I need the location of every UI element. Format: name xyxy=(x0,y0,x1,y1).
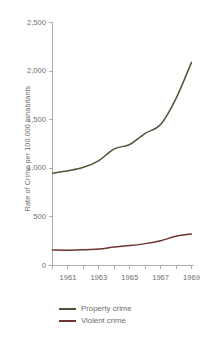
legend: Property crime Violent crime xyxy=(59,303,132,327)
crime-rate-line-chart: Rate of Crime per 100,000 Inhabitants 0 … xyxy=(0,0,208,346)
legend-item-violent-crime: Violent crime xyxy=(59,315,132,326)
legend-swatch-property-crime xyxy=(59,308,76,310)
series-line-property-crime xyxy=(53,62,192,173)
legend-item-property-crime: Property crime xyxy=(59,303,132,314)
axis-lines xyxy=(49,23,194,270)
plot-area xyxy=(0,0,208,346)
legend-label-violent-crime: Violent crime xyxy=(81,315,126,326)
data-series-group xyxy=(53,62,192,250)
legend-label-property-crime: Property crime xyxy=(81,303,132,314)
series-line-violent-crime xyxy=(53,234,192,250)
legend-swatch-violent-crime xyxy=(59,320,76,322)
